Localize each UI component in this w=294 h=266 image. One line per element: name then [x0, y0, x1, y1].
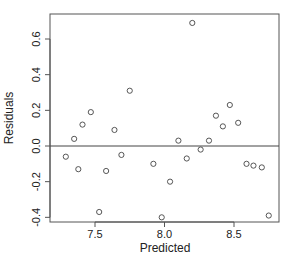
data-point: [244, 161, 249, 166]
x-axis: 7.58.08.5: [87, 222, 241, 240]
data-points: [63, 20, 271, 220]
data-point: [251, 163, 256, 168]
x-tick-label: 7.5: [87, 228, 102, 240]
plot-frame: [50, 14, 279, 222]
y-tick-label: -0.2: [30, 172, 42, 191]
y-tick-label: 0.2: [30, 103, 42, 118]
data-point: [236, 120, 241, 125]
y-tick-label: 0.6: [30, 31, 42, 46]
data-point: [72, 136, 77, 141]
y-tick-label: -0.4: [30, 208, 42, 227]
y-tick-label: 0.0: [30, 138, 42, 153]
data-point: [259, 165, 264, 170]
data-point: [190, 20, 195, 25]
x-axis-title: Predicted: [140, 241, 191, 255]
data-point: [151, 161, 156, 166]
data-point: [198, 147, 203, 152]
data-point: [88, 110, 93, 115]
data-point: [112, 127, 117, 132]
data-point: [63, 154, 68, 159]
data-point: [76, 167, 81, 172]
residual-plot: 7.58.08.5 -0.4-0.20.00.20.40.6 Predicted…: [0, 0, 294, 266]
y-axis: -0.4-0.20.00.20.40.6: [30, 31, 50, 226]
data-point: [213, 113, 218, 118]
data-point: [266, 213, 271, 218]
data-point: [184, 156, 189, 161]
data-point: [206, 138, 211, 143]
y-axis-title: Residuals: [2, 92, 16, 145]
data-point: [119, 152, 124, 157]
data-point: [167, 179, 172, 184]
data-point: [127, 88, 132, 93]
data-point: [80, 122, 85, 127]
y-tick-label: 0.4: [30, 67, 42, 82]
x-tick-label: 8.0: [157, 228, 172, 240]
data-point: [227, 102, 232, 107]
data-point: [104, 168, 109, 173]
data-point: [97, 209, 102, 214]
data-point: [159, 215, 164, 220]
data-point: [176, 138, 181, 143]
x-tick-label: 8.5: [226, 228, 241, 240]
data-point: [220, 124, 225, 129]
